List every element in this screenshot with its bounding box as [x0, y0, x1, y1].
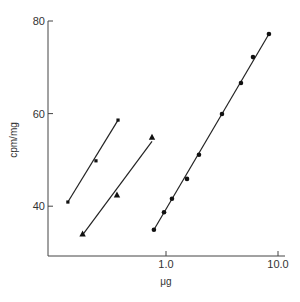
square-marker	[66, 200, 69, 203]
circle-marker	[197, 153, 202, 158]
circle-marker	[170, 196, 175, 201]
x-tick-label: 1.0	[158, 258, 173, 270]
data-series	[66, 32, 271, 237]
y-ticks: 406080	[33, 15, 53, 212]
y-tick-label: 60	[33, 108, 45, 120]
circle-marker	[267, 32, 272, 37]
square-marker	[94, 159, 97, 162]
circle-marker	[185, 177, 190, 182]
x-axis-label: μg	[160, 276, 171, 287]
fit-line	[83, 141, 152, 235]
triangle-marker	[149, 134, 155, 140]
circle-marker	[251, 55, 256, 60]
x-ticks: 1.010.0	[158, 251, 288, 270]
circle-marker	[220, 112, 225, 117]
fit-line	[68, 120, 118, 202]
y-tick-label: 80	[33, 15, 45, 27]
series-circles	[152, 32, 272, 232]
x-tick-label: 10.0	[267, 258, 288, 270]
circle-marker	[239, 81, 244, 86]
square-marker	[116, 118, 119, 121]
series-triangles	[79, 134, 155, 237]
chart: 406080 1.010.0 μg cpm/mg	[0, 0, 300, 302]
series-squares	[66, 118, 119, 203]
circle-marker	[152, 228, 157, 233]
y-tick-label: 40	[33, 200, 45, 212]
y-axis-label: cpm/mg	[8, 122, 19, 158]
circle-marker	[162, 210, 167, 215]
